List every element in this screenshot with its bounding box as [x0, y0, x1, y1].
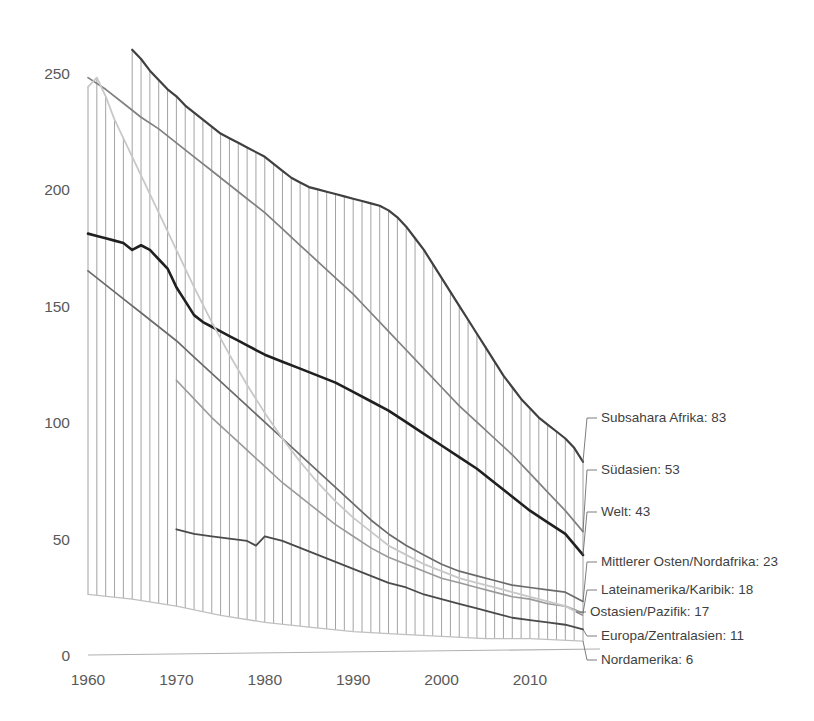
x-axis-tick-label: 1990 — [336, 671, 371, 688]
vertical-hatch-grid — [88, 50, 583, 641]
legend-label-ostasien-pazifik[interactable]: Ostasien/Pazifik: 17 — [590, 604, 709, 619]
legend-group: Subsahara Afrika: 83Südasien: 53Welt: 43… — [576, 410, 778, 667]
legend-label-europa-zentralasien[interactable]: Europa/Zentralasien: 11 — [601, 628, 744, 643]
legend-leader-line — [583, 629, 597, 636]
legend-leader-line — [583, 418, 597, 462]
x-axis-tick-label: 1960 — [71, 671, 106, 688]
y-axis-tick-label: 50 — [53, 531, 71, 548]
line-chart-figure: 250200150100500 196019701980199020002010… — [0, 0, 814, 721]
x-axis-tick-label: 1970 — [159, 671, 194, 688]
y-axis-ticks: 250200150100500 — [44, 65, 70, 664]
legend-label-nordamerika[interactable]: Nordamerika: 6 — [601, 652, 693, 667]
legend-leader-line — [583, 562, 597, 601]
y-axis-tick-label: 200 — [44, 181, 70, 198]
y-axis-tick-label: 100 — [44, 414, 70, 431]
y-axis-tick-label: 150 — [44, 298, 70, 315]
legend-label-lateinamerika-karibik[interactable]: Lateinamerika/Karibik: 18 — [601, 582, 753, 597]
y-axis-tick-label: 0 — [61, 647, 70, 664]
legend-label-mittlerer-osten-nordafrika[interactable]: Mittlerer Osten/Nordafrika: 23 — [601, 554, 778, 569]
x-axis-ticks: 196019701980199020002010 — [71, 671, 548, 688]
legend-leader-line — [583, 470, 597, 532]
y-axis-tick-label: 250 — [44, 65, 70, 82]
x-axis-tick-label: 2010 — [513, 671, 548, 688]
legend-leader-line — [583, 512, 597, 555]
x-axis-tick-label: 2000 — [424, 671, 459, 688]
legend-label-subsahara-afrika[interactable]: Subsahara Afrika: 83 — [601, 410, 726, 425]
legend-leader-line — [583, 641, 597, 660]
x-axis-tick-label: 1980 — [248, 671, 283, 688]
legend-label-s-dasien[interactable]: Südasien: 53 — [601, 462, 680, 477]
legend-label-welt[interactable]: Welt: 43 — [601, 504, 650, 519]
x-axis-line — [88, 649, 600, 655]
series-line-subsahara-afrika — [132, 50, 583, 462]
chart-container: 250200150100500 196019701980199020002010… — [0, 0, 814, 721]
